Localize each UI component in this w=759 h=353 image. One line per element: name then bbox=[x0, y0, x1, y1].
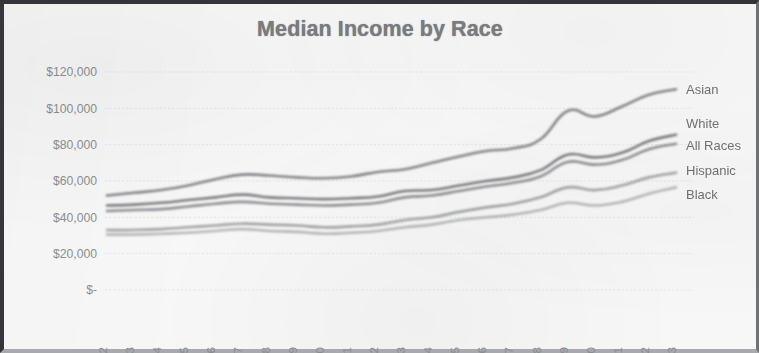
x-axis-tick-label: 2019 bbox=[557, 347, 570, 353]
y-axis-tick-label: $40,000 bbox=[53, 211, 97, 225]
x-axis-tick-label: 2020 bbox=[584, 347, 597, 353]
y-axis-tick-label: $80,000 bbox=[53, 138, 97, 152]
series-label-hispanic: Hispanic bbox=[686, 163, 736, 178]
series-label-all-races: All Races bbox=[686, 138, 741, 153]
y-axis-tick-label: $- bbox=[86, 283, 97, 297]
x-axis-tick-label: 2011 bbox=[340, 347, 353, 353]
x-axis-tick-label: 2008 bbox=[259, 347, 272, 353]
x-axis-tick-label: 2006 bbox=[204, 347, 217, 353]
series-label-black: Black bbox=[686, 187, 718, 202]
x-axis-tick-label: 2009 bbox=[286, 347, 299, 353]
x-axis-tick-label: 2016 bbox=[475, 347, 488, 353]
y-axis-tick-label: $100,000 bbox=[46, 102, 97, 116]
x-axis-labels-group: 2002200320042005200620072008200920102011… bbox=[96, 346, 678, 353]
x-axis-tick-label: 2002 bbox=[96, 347, 109, 353]
data-lines-group bbox=[107, 89, 676, 234]
x-axis-tick-label: 2007 bbox=[231, 347, 244, 353]
data-line-asian bbox=[107, 89, 676, 195]
series-label-asian: Asian bbox=[686, 82, 719, 97]
x-axis-tick-label: 2013 bbox=[394, 347, 407, 353]
y-axis-tick-label: $60,000 bbox=[53, 174, 97, 188]
x-axis-tick-label: 2010 bbox=[313, 347, 326, 353]
x-axis-tick-label: 2004 bbox=[150, 346, 163, 353]
series-label-white: White bbox=[686, 116, 719, 131]
x-axis-tick-label: 2023 bbox=[665, 347, 678, 353]
y-axis-tick-label: $20,000 bbox=[53, 247, 97, 261]
y-axis-tick-label: $120,000 bbox=[46, 65, 97, 79]
x-axis-tick-label: 2015 bbox=[448, 347, 461, 353]
chart-figure: Median Income by Race $120,000$100,000$8… bbox=[0, 0, 759, 353]
y-axis-labels-group: $120,000$100,000$80,000$60,000$40,000$20… bbox=[46, 65, 97, 297]
x-axis-tick-label: 2022 bbox=[638, 347, 651, 353]
x-axis-tick-label: 2021 bbox=[611, 347, 624, 353]
series-labels-group: AsianWhiteAll RacesHispanicBlack bbox=[686, 82, 741, 202]
x-axis-tick-label: 2005 bbox=[177, 347, 190, 353]
plot-area: $120,000$100,000$80,000$60,000$40,000$20… bbox=[4, 4, 759, 353]
x-axis-tick-label: 2017 bbox=[502, 347, 515, 353]
gridlines-group bbox=[105, 72, 694, 290]
x-axis-tick-label: 2018 bbox=[530, 347, 543, 353]
x-axis-tick-label: 2012 bbox=[367, 347, 380, 353]
line-chart-svg: $120,000$100,000$80,000$60,000$40,000$20… bbox=[4, 4, 759, 353]
x-axis-tick-label: 2003 bbox=[123, 347, 136, 353]
x-axis-tick-label: 2014 bbox=[421, 346, 434, 353]
